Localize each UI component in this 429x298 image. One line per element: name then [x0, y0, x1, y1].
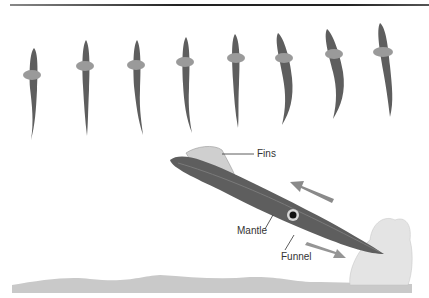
squid-top-view-4 — [176, 37, 194, 133]
squid-top-view-2 — [76, 40, 94, 136]
label-fins: Fins — [257, 148, 276, 159]
squid-sequence — [23, 23, 393, 140]
squid-top-view-7 — [325, 29, 344, 119]
label-funnel: Funnel — [281, 251, 312, 262]
squid-top-view-1 — [23, 48, 41, 140]
label-mantle: Mantle — [237, 225, 267, 236]
jet-arrow-forward — [290, 181, 334, 203]
squid-side-view — [170, 146, 384, 254]
squid-top-view-6 — [275, 33, 293, 125]
squid-top-view-8 — [373, 23, 393, 117]
sand-cloud — [350, 218, 412, 285]
illustration-canvas — [0, 0, 429, 298]
squid-top-view-5 — [227, 34, 245, 128]
squid-top-view-3 — [127, 40, 145, 135]
